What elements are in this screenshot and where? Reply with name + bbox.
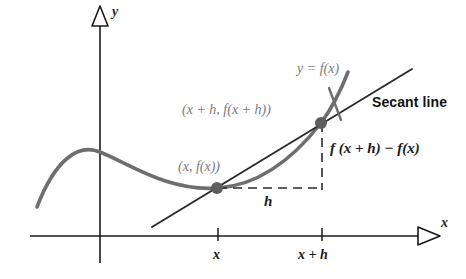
run-label: h [264, 194, 272, 209]
secant-line-figure: y x x x + h (x, f(x)) (x + h, f(x + h)) … [0, 0, 466, 279]
function-curve-group [37, 72, 348, 207]
rise-label: f (x + h) − f(x) [330, 141, 420, 156]
x-axis-label: x [441, 216, 448, 230]
y-axis-label: y [112, 5, 118, 19]
x-tick-label-x: x [213, 248, 220, 262]
point-label-left: (x, f(x)) [178, 160, 220, 174]
curve-label: y = f(x) [297, 62, 339, 76]
x-tick-label-x-plus-h: x + h [298, 248, 328, 262]
function-curve [37, 72, 348, 207]
x-axis-arrowhead [418, 227, 440, 245]
point-marker-left [211, 182, 223, 194]
point-marker-right [315, 117, 327, 129]
axes-group [30, 6, 440, 263]
point-label-right: (x + h, f(x + h)) [182, 103, 271, 117]
y-axis-arrowhead [92, 6, 108, 26]
secant-line-label: Secant line [372, 95, 447, 109]
